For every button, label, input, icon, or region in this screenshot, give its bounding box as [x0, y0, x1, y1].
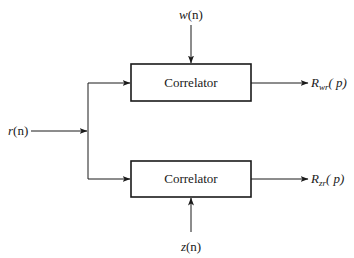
output-top-label: Rwr( p) — [310, 75, 347, 92]
input-z-label: z(n) — [180, 239, 201, 254]
output-bottom-label: Rzr( p) — [310, 171, 344, 188]
correlator-bottom-label: Correlator — [164, 171, 218, 186]
correlator-top-label: Correlator — [164, 75, 218, 90]
input-r-label: r(n) — [8, 123, 28, 138]
input-w-label: w(n) — [179, 7, 203, 22]
block-diagram: w(n) Correlator Rwr( p) r(n) Correlator … — [0, 0, 354, 258]
